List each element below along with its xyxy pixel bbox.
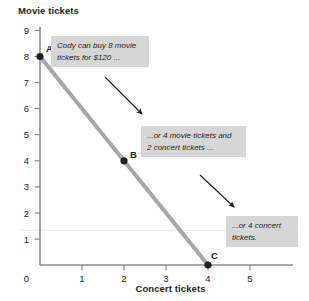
y-axis-ticks <box>35 30 41 239</box>
data-point-c: C <box>204 250 218 269</box>
y-tick-label-6: 6 <box>24 103 29 114</box>
data-point-label-c: C <box>211 250 218 261</box>
y-tick-label-3: 3 <box>24 181 29 192</box>
y-tick-labels: 9 8 7 6 5 4 3 2 1 0 <box>24 25 29 284</box>
y-tick-label-1: 1 <box>24 234 29 245</box>
x-axis-title: Concert tickets <box>135 283 205 294</box>
annotation-callout-1: Cody can buy 8 movie tickets for $120 ..… <box>51 36 149 67</box>
x-axis-ticks <box>82 265 250 271</box>
y-tick-label-4: 4 <box>24 155 29 166</box>
y-tick-label-8: 8 <box>24 51 29 62</box>
y-tick-label-2: 2 <box>24 208 29 219</box>
callout-arrow-2 <box>200 175 234 207</box>
annotation-callout-2: ...or 4 movie tickets and 2 concert tick… <box>141 126 246 157</box>
data-point-label-b: B <box>130 149 137 160</box>
chart-figure: Movie tickets 9 8 7 6 5 <box>0 0 309 301</box>
callout-arrow-1 <box>105 77 142 114</box>
y-tick-label-7: 7 <box>24 77 29 88</box>
y-tick-label-5: 5 <box>24 129 29 140</box>
annotation-callout-3: ...or 4 concert tickets. <box>226 216 298 247</box>
x-axis-title-wrap: Concert tickets <box>0 283 309 294</box>
y-tick-label-9: 9 <box>24 25 29 36</box>
